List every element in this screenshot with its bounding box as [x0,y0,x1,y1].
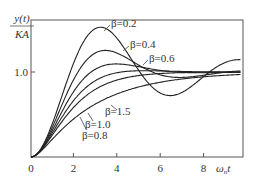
y-tick-1: 1.0 [14,66,28,78]
curve-06 [31,64,240,157]
x-label: ωnt [216,162,231,176]
label-beta-0-8: β=0.8 [82,129,108,141]
x-tick-0: 0 [28,162,34,174]
curve-10 [31,72,240,157]
y-label-denominator: KA [14,28,29,40]
x-tick-4: 4 [114,162,120,174]
label-beta-0-4: β=0.4 [130,38,156,50]
curve-08 [31,71,240,157]
x-tick-2: 2 [71,162,77,174]
y-label-numerator: y(t) [13,12,30,25]
step-response-chart: 0 2 4 6 8 1.0 y(t) KA ωnt β=0.2 β=0.4 β=… [0,0,258,182]
label-beta-1-5: β=1.5 [105,105,131,117]
x-tick-6: 6 [157,162,163,174]
label-beta-0-2: β=0.2 [111,17,137,29]
x-tick-8: 8 [201,162,207,174]
label-beta-0-6: β=0.6 [149,52,175,64]
